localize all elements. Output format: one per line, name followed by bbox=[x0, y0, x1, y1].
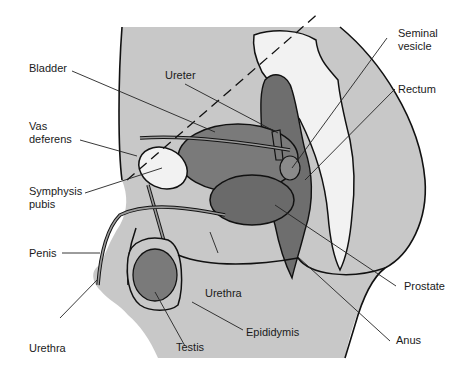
label-rectum: Rectum bbox=[398, 83, 436, 96]
label-vas-deferens: Vas deferens bbox=[29, 120, 72, 146]
seminal-vesicle-organ bbox=[280, 156, 300, 180]
label-prostate: Prostate bbox=[404, 280, 445, 293]
label-epididymis: Epididymis bbox=[246, 326, 299, 339]
label-ureter: Ureter bbox=[165, 69, 196, 82]
label-bladder: Bladder bbox=[29, 62, 67, 75]
anatomy-diagram: Bladder Ureter Vas deferens Symphysis pu… bbox=[0, 0, 463, 375]
label-anus: Anus bbox=[396, 334, 421, 347]
label-urethra-center: Urethra bbox=[205, 287, 242, 300]
label-penis: Penis bbox=[29, 247, 57, 260]
label-seminal-vesicle: Seminal vesicle bbox=[398, 27, 438, 53]
label-urethra-left: Urethra bbox=[29, 342, 66, 355]
testis-organ bbox=[133, 249, 177, 301]
label-testis: Testis bbox=[176, 341, 204, 354]
label-symphysis-pubis: Symphysis pubis bbox=[29, 185, 82, 211]
prostate-organ bbox=[210, 175, 294, 225]
